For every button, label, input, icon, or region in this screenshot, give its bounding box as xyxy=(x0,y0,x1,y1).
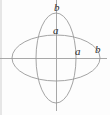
label-b-right: b xyxy=(95,44,101,55)
ellipse-figure: b a a b xyxy=(0,0,110,115)
figure-canvas xyxy=(0,0,110,115)
label-a-right: a xyxy=(75,46,81,57)
label-b-top: b xyxy=(54,2,60,13)
label-a-top: a xyxy=(53,25,59,36)
